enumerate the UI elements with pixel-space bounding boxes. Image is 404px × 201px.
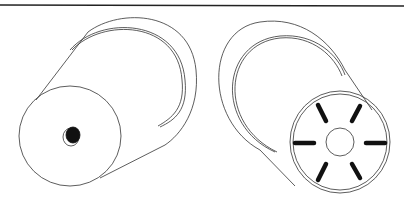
left-cylinder-step-ring — [70, 28, 185, 127]
right-cylinder-center-circle — [326, 128, 354, 156]
right-cylinder-back-rim — [219, 21, 345, 150]
top-border-line — [0, 5, 404, 6]
slot-icon — [352, 164, 360, 178]
left-cylinder — [19, 18, 197, 186]
right-cylinder — [219, 21, 390, 193]
slot-icon — [318, 164, 326, 180]
figure-canvas — [0, 0, 404, 201]
left-cylinder-back-rim — [88, 18, 197, 145]
slot-icon — [352, 106, 360, 121]
radial-slots — [295, 105, 385, 180]
left-cylinder-hole-icon — [66, 127, 80, 143]
slot-icon — [318, 105, 326, 121]
